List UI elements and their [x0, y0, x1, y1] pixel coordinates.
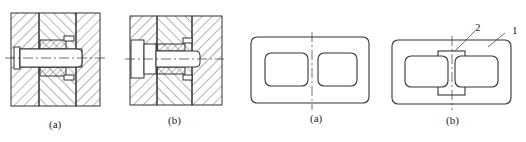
figure-right-a — [251, 32, 369, 110]
caption-left-a: (a) — [49, 118, 61, 130]
figure-left-b — [125, 16, 224, 105]
caption-right-b: (b) — [446, 114, 459, 126]
callout-2: 2 — [475, 21, 481, 33]
caption-left-b: (b) — [168, 114, 181, 126]
callout-1: 1 — [512, 24, 518, 36]
figure-right-b — [392, 31, 511, 110]
figure-left-a — [5, 13, 108, 106]
caption-right-a: (a) — [310, 112, 322, 124]
